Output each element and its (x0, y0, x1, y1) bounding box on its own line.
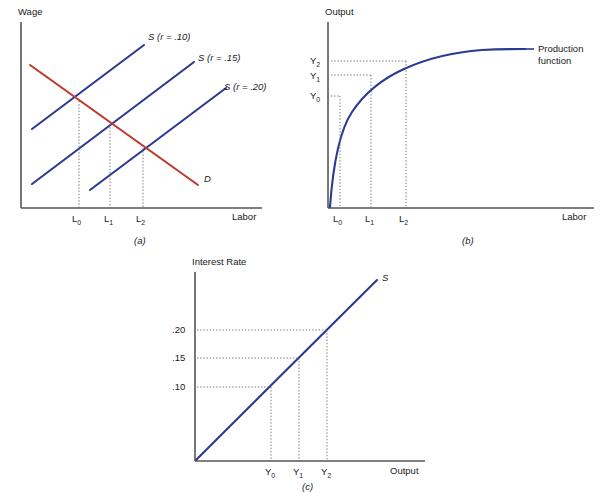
saving-schedule-curve (196, 280, 377, 460)
panel-c-xtick-y0: Y0 (265, 466, 275, 479)
production-function-label-line1: Production (538, 43, 583, 54)
panel-b-x-axis-label: Labor (562, 211, 586, 222)
panel-b-xtick-l2: L2 (399, 213, 408, 226)
panel-c-ytick-20: .20 (172, 324, 185, 335)
panel-c-y-axis-label: Interest Rate (192, 256, 246, 267)
supply-curve-r20-label: S (r = .20) (224, 81, 267, 92)
panel-b-xtick-l1: L1 (365, 213, 374, 226)
panel-a-y-axis-label: Wage (18, 6, 42, 17)
panel-b: Output Labor Production function Y2 Y1 Y… (310, 6, 594, 246)
production-function-curve (330, 49, 525, 207)
panel-b-caption: (b) (462, 235, 474, 246)
panel-b-ytick-y0: Y0 (310, 90, 320, 103)
panel-c-ytick-10: .10 (172, 381, 185, 392)
panel-b-ytick-y1: Y1 (310, 70, 320, 83)
saving-schedule-label: S (382, 272, 389, 283)
panel-a-xtick-l1: L1 (104, 213, 113, 226)
supply-curve-r15-label: S (r = .15) (198, 52, 241, 63)
panel-c-caption: (c) (302, 481, 313, 492)
panel-a: Wage Labor S (r = .10) S (r = .15) S (r … (18, 6, 267, 246)
demand-curve-label: D (204, 173, 211, 184)
panel-a-x-axis-label: Labor (232, 211, 256, 222)
production-function-label-line2: function (538, 55, 571, 66)
supply-curve-r10 (32, 45, 144, 129)
panel-c-xtick-y1: Y1 (293, 466, 303, 479)
panel-c: Interest Rate Output S .20 .15 .10 Y0 Y1… (172, 256, 425, 492)
panel-b-ytick-y2: Y2 (310, 55, 320, 68)
panel-a-xtick-l0: L0 (72, 213, 81, 226)
economics-figure: Wage Labor S (r = .10) S (r = .15) S (r … (0, 0, 605, 493)
panel-c-xtick-y2: Y2 (321, 466, 331, 479)
supply-curve-r10-label: S (r = .10) (148, 31, 191, 42)
panel-c-x-axis-label: Output (390, 465, 419, 476)
panel-c-ytick-15: .15 (172, 352, 185, 363)
panel-a-caption: (a) (134, 235, 146, 246)
panel-b-xtick-l0: L0 (333, 213, 342, 226)
panel-a-xtick-l2: L2 (136, 213, 145, 226)
panel-b-y-axis-label: Output (325, 6, 354, 17)
